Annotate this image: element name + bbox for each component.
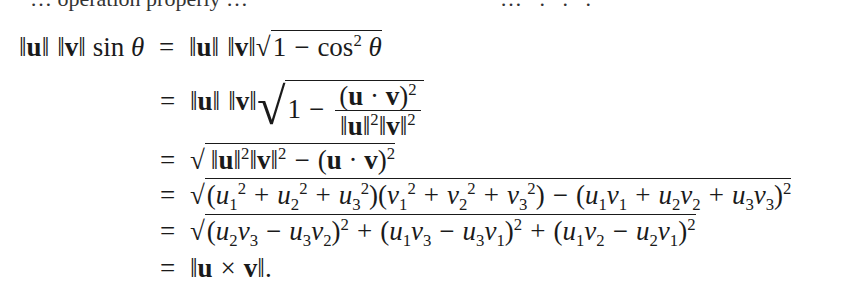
step-5-expr: √(u2v3−u3v2)2+(u1v3−u3v1)2+(u1v2−u2v1)2 [190, 216, 696, 246]
equation-line-2: = ‖u‖‖v‖√1−(u · v)2‖u‖2‖v‖2 [160, 80, 424, 140]
step-1-expr: ‖u‖‖v‖√1−cos2 θ [189, 32, 382, 62]
clipped-top-text: … operation properly … … . . . [0, 0, 845, 8]
equals-sign: = [160, 216, 175, 246]
equals-sign: = [160, 86, 175, 116]
radical-icon: √ [256, 34, 271, 61]
radical-icon: √ [257, 81, 286, 133]
equation-line-4: = √(u12+u22+u32)(v12+v22+v32)−(u1v1+u2v2… [160, 178, 791, 209]
equals-sign: = [160, 180, 175, 210]
equals-sign: = [160, 145, 175, 175]
equation-line-6: = ‖u×v‖. [160, 255, 272, 282]
equation-line-3: = √‖u‖2‖v‖2−(u · v)2 [160, 143, 395, 174]
clipped-text-right: … . . . [500, 0, 597, 12]
step-3-expr: √‖u‖2‖v‖2−(u · v)2 [190, 145, 395, 175]
equals-sign: = [159, 32, 174, 62]
clipped-text-left: … operation properly … [30, 0, 248, 12]
step-4-expr: √(u12+u22+u32)(v12+v22+v32)−(u1v1+u2v2+u… [190, 180, 792, 210]
radical-icon: √ [190, 147, 205, 174]
lhs: ‖u‖‖v‖ sin θ [19, 32, 151, 62]
equation-line-1: ‖u‖‖v‖ sin θ = ‖u‖‖v‖√1−cos2 θ [19, 30, 382, 61]
equals-sign: = [160, 253, 175, 283]
step-2-expr: ‖u‖‖v‖√1−(u · v)2‖u‖2‖v‖2 [190, 86, 424, 116]
step-6-expr: ‖u×v‖. [190, 253, 272, 283]
radical-icon: √ [190, 182, 205, 209]
radical-icon: √ [190, 218, 205, 245]
equation-line-5: = √(u2v3−u3v2)2+(u1v3−u3v1)2+(u1v2−u2v1)… [160, 214, 696, 245]
fraction: (u · v)2‖u‖2‖v‖2 [335, 83, 420, 140]
